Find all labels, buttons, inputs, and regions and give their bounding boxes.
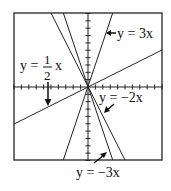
arrow-icon: [45, 99, 52, 106]
svg-text:y = −2x: y = −2x: [99, 90, 143, 105]
arrow-icon: [104, 106, 110, 113]
svg-text:1: 1: [44, 52, 51, 67]
label-y-3x: y = 3x: [106, 26, 153, 41]
svg-text:2: 2: [44, 68, 51, 83]
graph-figure: y = 3x y = 1 2 x y = −2x y = −3x: [0, 0, 171, 191]
svg-text:y = −3x: y = −3x: [76, 165, 120, 180]
svg-text:y =: y =: [20, 58, 39, 73]
label-y-neg3x: y = −3x: [76, 152, 120, 180]
label-y-half-x: y = 1 2 x: [20, 52, 62, 106]
svg-text:x: x: [55, 58, 62, 73]
label-y-neg2x: y = −2x: [99, 90, 143, 113]
svg-text:y = 3x: y = 3x: [117, 26, 153, 41]
